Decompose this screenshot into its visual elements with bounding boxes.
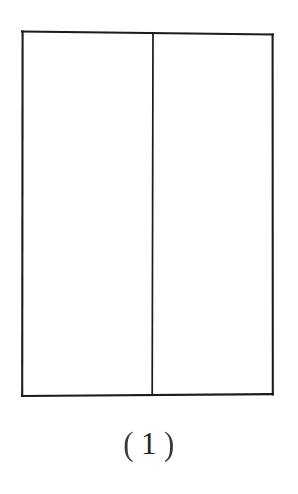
vertical-divider-line <box>152 33 153 395</box>
figure-caption: (1) <box>0 424 298 464</box>
right-panel-region <box>155 36 272 394</box>
line-drawing-svg <box>0 0 298 410</box>
caption-close-paren: ) <box>164 422 175 465</box>
figure-drawing-area <box>0 0 298 410</box>
caption-open-paren: ( <box>123 422 134 465</box>
left-panel-region <box>24 34 151 394</box>
rectangle-bottom-edge <box>22 394 273 396</box>
rectangle-top-edge <box>22 32 273 35</box>
figure-root: (1) <box>0 0 298 494</box>
caption-number: 1 <box>141 424 157 464</box>
